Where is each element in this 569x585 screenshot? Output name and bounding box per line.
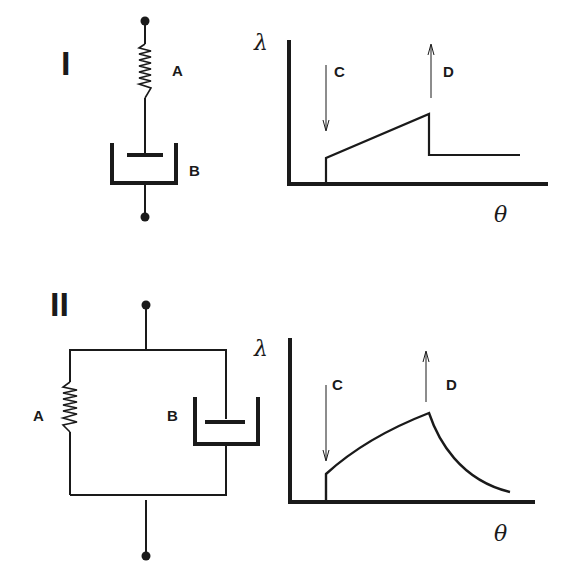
- strain-curve: [326, 413, 510, 502]
- spring-a-icon: [139, 44, 151, 98]
- dashpot-label-b: B: [167, 407, 178, 424]
- top-frame: [70, 350, 226, 419]
- arrow-label-c: C: [334, 63, 345, 80]
- spring-label-a: A: [33, 407, 44, 424]
- x-axis-label: θ: [494, 521, 507, 546]
- unload-arrow-d: [428, 44, 434, 98]
- x-axis-label: θ: [494, 202, 507, 227]
- viscoelastic-models-figure: I A B λ θ: [0, 0, 569, 585]
- spring-a-icon: [63, 382, 77, 432]
- bottom-terminal-dot: [141, 213, 150, 222]
- strain-curve: [326, 114, 520, 184]
- panel-i-roman-label: I: [61, 44, 70, 82]
- y-axis-label: λ: [253, 30, 268, 55]
- kelvin-voigt-model-diagram: [63, 301, 258, 561]
- spring-label-a: A: [172, 62, 183, 79]
- bottom-terminal-dot: [142, 552, 151, 561]
- panel-ii: II A B: [33, 285, 535, 561]
- unload-arrow-d: [423, 351, 429, 402]
- arrow-label-c: C: [332, 376, 343, 393]
- y-axis-label: λ: [253, 336, 268, 361]
- arrow-label-d: D: [446, 376, 457, 393]
- load-arrow-c: [323, 385, 329, 461]
- panel-i: I A B λ θ: [61, 17, 548, 228]
- bottom-frame: [70, 444, 226, 495]
- graph-i: [287, 40, 548, 185]
- panel-ii-roman-label: II: [50, 285, 69, 323]
- maxwell-model-diagram: [112, 17, 176, 222]
- graph-ii: [288, 338, 535, 503]
- load-arrow-c: [323, 65, 329, 131]
- dashpot-label-b: B: [189, 162, 200, 179]
- arrow-label-d: D: [443, 63, 454, 80]
